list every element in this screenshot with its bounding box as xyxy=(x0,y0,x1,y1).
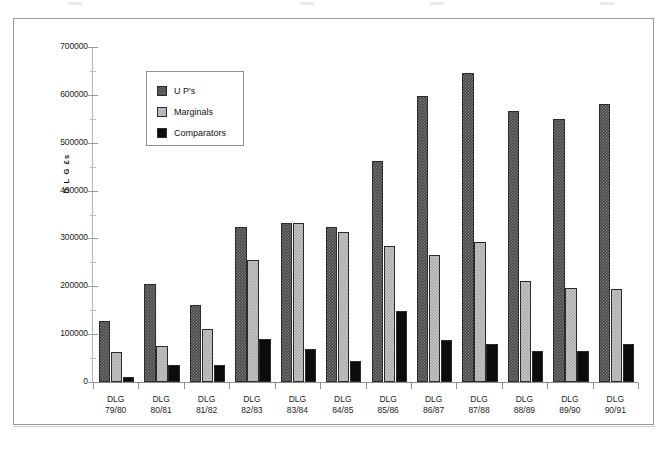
y-tick-label: 600000 xyxy=(60,89,88,99)
bar-0 xyxy=(235,227,246,382)
x-tick xyxy=(638,383,639,389)
x-tick xyxy=(547,383,548,389)
bar-1 xyxy=(384,246,395,382)
bar-0 xyxy=(599,104,610,382)
legend-swatch-icon xyxy=(157,86,167,96)
y-axis-title: D L G £s xyxy=(62,114,71,234)
bar-1 xyxy=(520,281,531,382)
bar-0 xyxy=(326,227,337,382)
bar-0 xyxy=(99,321,110,382)
y-tick-label: 300000 xyxy=(60,232,88,242)
x-tick xyxy=(275,383,276,389)
legend-label: Comparators xyxy=(174,128,226,138)
bar-0 xyxy=(417,96,428,382)
bar-2 xyxy=(623,344,634,382)
bar-group xyxy=(372,47,407,382)
legend-item: Comparators xyxy=(157,123,243,143)
scan-artifacts xyxy=(0,0,668,10)
bar-1 xyxy=(565,288,576,382)
legend-label: U P's xyxy=(174,86,195,96)
x-tick xyxy=(366,383,367,389)
x-tick xyxy=(593,383,594,389)
x-tick xyxy=(138,383,139,389)
legend-label: Marginals xyxy=(174,107,213,117)
y-tick-label: 100000 xyxy=(60,328,88,338)
bar-0 xyxy=(462,73,473,382)
bar-2 xyxy=(441,340,452,382)
bar-1 xyxy=(611,289,622,382)
x-tick xyxy=(411,383,412,389)
x-axis-label: DLG90/91 xyxy=(584,394,646,416)
bar-0 xyxy=(190,305,201,382)
chart-legend: U P'sMarginalsComparators xyxy=(146,71,244,146)
bar-2 xyxy=(350,361,361,382)
bar-0 xyxy=(508,111,519,382)
x-axis-label-line: DLG xyxy=(584,394,646,405)
bar-2 xyxy=(168,365,179,382)
x-tick xyxy=(93,383,94,389)
y-tick-label: 700000 xyxy=(60,41,88,51)
x-tick xyxy=(456,383,457,389)
bar-1 xyxy=(111,352,122,382)
bar-group xyxy=(462,47,497,382)
bar-2 xyxy=(123,377,134,382)
bar-group xyxy=(99,47,134,382)
legend-swatch-icon xyxy=(157,128,167,138)
page-frame-shadow xyxy=(14,426,655,427)
bar-group xyxy=(553,47,588,382)
chart-page-frame: D L G £s 0100000200000300000400000500000… xyxy=(13,18,654,425)
bar-0 xyxy=(372,161,383,382)
bar-2 xyxy=(214,365,225,382)
legend-item: Marginals xyxy=(157,102,243,122)
bar-0 xyxy=(553,119,564,382)
bar-2 xyxy=(486,344,497,382)
bar-1 xyxy=(156,346,167,382)
bar-0 xyxy=(144,284,155,382)
bar-2 xyxy=(396,311,407,382)
y-tick-label: 400000 xyxy=(60,185,88,195)
bar-group xyxy=(508,47,543,382)
bar-2 xyxy=(259,339,270,382)
y-tick-label: 500000 xyxy=(60,137,88,147)
bar-group xyxy=(281,47,316,382)
bar-1 xyxy=(202,329,213,382)
x-axis-label-line: 90/91 xyxy=(584,405,646,416)
bar-0 xyxy=(281,223,292,382)
legend-swatch-icon xyxy=(157,107,167,117)
x-tick xyxy=(184,383,185,389)
bar-1 xyxy=(247,260,258,382)
bar-2 xyxy=(532,351,543,382)
bar-group xyxy=(326,47,361,382)
x-tick xyxy=(229,383,230,389)
y-tick-label: 200000 xyxy=(60,280,88,290)
y-tick-label: 0 xyxy=(83,376,88,386)
x-tick xyxy=(320,383,321,389)
x-tick xyxy=(502,383,503,389)
bar-group xyxy=(417,47,452,382)
legend-item: U P's xyxy=(157,81,243,101)
grouped-bar-chart: D L G £s 0100000200000300000400000500000… xyxy=(14,19,653,424)
bar-1 xyxy=(293,223,304,382)
bar-1 xyxy=(429,255,440,382)
bar-group xyxy=(599,47,634,382)
bar-1 xyxy=(474,242,485,382)
bar-1 xyxy=(338,232,349,382)
bar-2 xyxy=(577,351,588,382)
bar-2 xyxy=(305,349,316,382)
